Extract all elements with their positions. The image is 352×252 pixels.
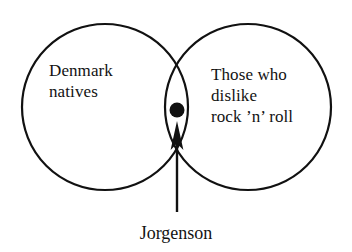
intersection-point-marker [170, 103, 185, 118]
set-label-denmark-natives: Denmark natives [49, 60, 113, 102]
set-label-rock-dislikers: Those who dislike rock ’n’ roll [211, 64, 293, 127]
venn-diagram-canvas [0, 0, 352, 252]
circle-denmark-natives [22, 24, 188, 190]
annotation-caption-jorgenson: Jorgenson [0, 222, 352, 244]
venn-diagram-figure: Denmark natives Those who dislike rock ’… [0, 0, 352, 252]
